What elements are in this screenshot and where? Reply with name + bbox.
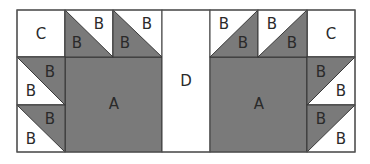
piece-b-side-left-2 [17,105,65,152]
label-b-top-right-2-light: B [267,15,277,33]
label-b-top-left-1-dark: B [72,34,82,52]
label-b-top-left-1-light: B [94,15,104,33]
label-b-side-right-1-dark: B [316,63,326,81]
piece-b-top-right-2 [258,10,307,57]
label-b-side-left-2-light: B [26,130,36,148]
label-b-side-right-2-dark: B [316,110,326,128]
label-a-left: A [109,95,120,113]
label-c-left: C [36,25,46,43]
piece-b-top-right-1 [210,10,258,57]
label-b-side-left-1-light: B [26,82,36,100]
piece-b-side-right-2 [307,105,355,152]
label-b-top-left-2-dark: B [120,34,130,52]
label-a-right: A [254,95,265,113]
label-b-top-right-1-light: B [219,15,229,33]
label-b-side-left-2-dark: B [45,110,55,128]
label-b-top-right-2-dark: B [287,34,297,52]
label-b-top-left-2-light: B [142,15,152,33]
piece-b-side-right-1 [307,57,355,105]
quilt-block-diagram: C A D A C B B B B B B B B B B B B B B B … [0,0,370,164]
piece-b-side-left-1 [17,57,65,105]
label-b-side-right-2-light: B [336,130,346,148]
label-b-side-left-1-dark: B [45,63,55,81]
label-d-center: D [180,72,192,90]
label-b-side-right-1-light: B [336,82,346,100]
label-c-right: C [326,25,336,43]
label-b-top-right-1-dark: B [238,34,248,52]
